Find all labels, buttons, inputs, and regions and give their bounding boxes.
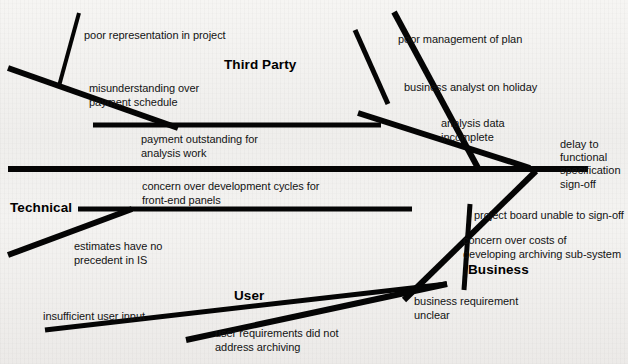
bone-third-party-left-twig — [59, 13, 79, 86]
category-label-user: User — [234, 288, 264, 303]
cause-label-c10: concern over costs of developing archivi… — [463, 234, 621, 261]
cause-label-c2: misunderstanding over payment schedule — [89, 82, 199, 109]
cause-label-c7: concern over development cycles for fron… — [142, 180, 319, 207]
cause-label-c6: analysis data incomplete — [441, 117, 505, 144]
cause-label-c12: insufficient user input — [43, 310, 145, 324]
cause-label-c13: user requirements did not address archiv… — [215, 327, 338, 354]
cause-label-c5: business analyst on holiday — [404, 81, 537, 95]
cause-label-c8: estimates have no precedent in IS — [74, 240, 162, 267]
category-label-business: Business — [468, 262, 529, 277]
fishbone-diagram-canvas: poor representation in projectmisunderst… — [0, 0, 628, 364]
cause-label-c9: project board unable to sign-off — [474, 209, 624, 223]
cause-label-c3: payment outstanding for analysis work — [141, 133, 258, 160]
category-label-technical: Technical — [10, 200, 72, 215]
category-label-third-party: Third Party — [224, 57, 296, 72]
cause-label-c4: poor management of plan — [398, 33, 522, 47]
cause-label-c1: poor representation in project — [84, 29, 226, 43]
bone-third-party-right-twig — [355, 30, 388, 104]
effect-label: delay to functional specification sign-o… — [560, 138, 621, 191]
cause-label-c11: business requirement unclear — [414, 295, 518, 322]
